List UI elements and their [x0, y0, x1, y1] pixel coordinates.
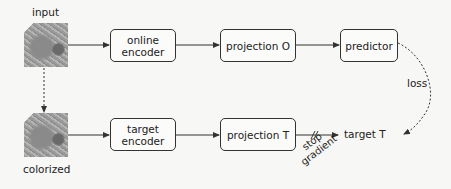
colorized-label: colorized — [23, 163, 70, 175]
colorized-image — [24, 113, 68, 157]
online-encoder-box: online encoder — [110, 29, 176, 62]
input-image — [24, 23, 68, 67]
projection-t-box: projection T — [220, 118, 296, 151]
online-encoder-line1: online — [122, 34, 165, 46]
target-encoder-line1: target — [122, 123, 165, 135]
target-t-label: target T — [344, 128, 386, 140]
loss-label: loss — [407, 77, 427, 89]
projection-t-label: projection T — [227, 129, 289, 141]
diagram-canvas: input colorized online encoder projectio… — [0, 0, 451, 189]
target-encoder-box: target encoder — [110, 118, 176, 151]
target-encoder-line2: encoder — [122, 135, 165, 147]
projection-o-box: projection O — [220, 29, 296, 62]
projection-o-label: projection O — [226, 40, 290, 52]
predictor-label: predictor — [345, 40, 392, 52]
predictor-box: predictor — [340, 29, 398, 62]
input-label: input — [32, 6, 59, 18]
online-encoder-line2: encoder — [122, 46, 165, 58]
